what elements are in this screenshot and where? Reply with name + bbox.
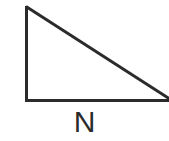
base-side-label: N [0, 106, 169, 138]
triangle-hypotenuse [26, 7, 169, 101]
right-triangle-figure: N [0, 0, 169, 141]
